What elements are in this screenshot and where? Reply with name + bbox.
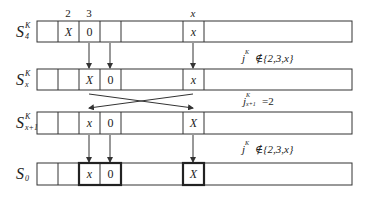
column-header-2: 2 <box>65 7 71 19</box>
diagram-canvas: 2 3 x X 0 x X 0 x <box>0 0 367 200</box>
cell: x <box>86 167 93 181</box>
row-s4k: X 0 x <box>37 21 352 42</box>
cell: 0 <box>108 167 114 181</box>
condition-1: jK∉{2,3,x} <box>242 52 293 65</box>
cell: X <box>189 116 198 130</box>
cell: 0 <box>87 25 93 39</box>
cell: x <box>86 116 93 130</box>
row-sxk: X 0 x <box>37 69 352 90</box>
row-label-s4k: SK4 <box>16 24 36 40</box>
cell: x <box>190 73 197 87</box>
condition-3: jK∉{2,3,x} <box>242 143 293 156</box>
cell: 0 <box>108 116 114 130</box>
column-header-x: x <box>190 7 196 19</box>
cell: X <box>64 25 73 39</box>
row-sx1k: x 0 X <box>37 112 352 134</box>
row-label-s0: S0 <box>16 166 36 182</box>
condition-2: jKx+1=2 <box>243 95 274 107</box>
row-s0: x 0 X <box>37 163 352 185</box>
cell: X <box>85 73 94 87</box>
cell: 0 <box>108 73 114 87</box>
cell: x <box>190 25 197 39</box>
column-header-3: 3 <box>86 7 92 19</box>
row-label-sx1k: SKx+1 <box>16 115 42 131</box>
row-label-sxk: SKx <box>16 72 36 88</box>
cell: X <box>189 167 198 181</box>
